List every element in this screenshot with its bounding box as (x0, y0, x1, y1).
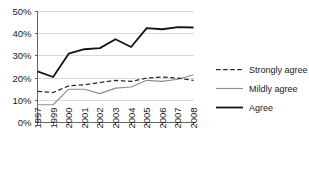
y-tick-label: 0% (18, 117, 32, 128)
y-tick-label: 10% (12, 95, 32, 106)
y-tick-label: 30% (12, 50, 32, 61)
y-tick-label: 20% (12, 73, 32, 84)
x-axis-tick-labels: 1997199920002001200220032004200520062007… (32, 107, 199, 128)
x-tick-label: 2001 (79, 107, 90, 128)
y-axis-gridlines (38, 12, 194, 101)
y-tick-label: 40% (12, 28, 32, 39)
x-tick-label: 2008 (188, 107, 199, 128)
x-tick-label: 2002 (94, 107, 105, 128)
x-tick-label: 2006 (157, 107, 168, 128)
x-tick-label: 2007 (172, 107, 183, 128)
x-tick-label: 2004 (126, 107, 137, 128)
x-tick-label: 2005 (141, 107, 152, 128)
series-line-agree (38, 27, 194, 77)
legend-label-agree: Agree (249, 103, 273, 113)
line-chart: 0%10%20%30%40%50% 1997199920002001200220… (0, 0, 309, 174)
legend-label-mildly-agree: Mildly agree (249, 84, 298, 94)
chart-container: 0%10%20%30%40%50% 1997199920002001200220… (0, 0, 309, 174)
legend-label-strongly-agree: Strongly agree (249, 65, 308, 75)
y-tick-label: 50% (12, 6, 32, 17)
x-tick-label: 1999 (48, 107, 59, 128)
x-tick-label: 1997 (32, 107, 43, 128)
x-tick-label: 2003 (110, 107, 121, 128)
x-tick-label: 2000 (63, 107, 74, 128)
y-axis-tick-labels: 0%10%20%30%40%50% (12, 6, 32, 128)
series-line-strongly-agree (38, 77, 194, 93)
legend: Strongly agree Mildly agree Agree (216, 65, 308, 113)
